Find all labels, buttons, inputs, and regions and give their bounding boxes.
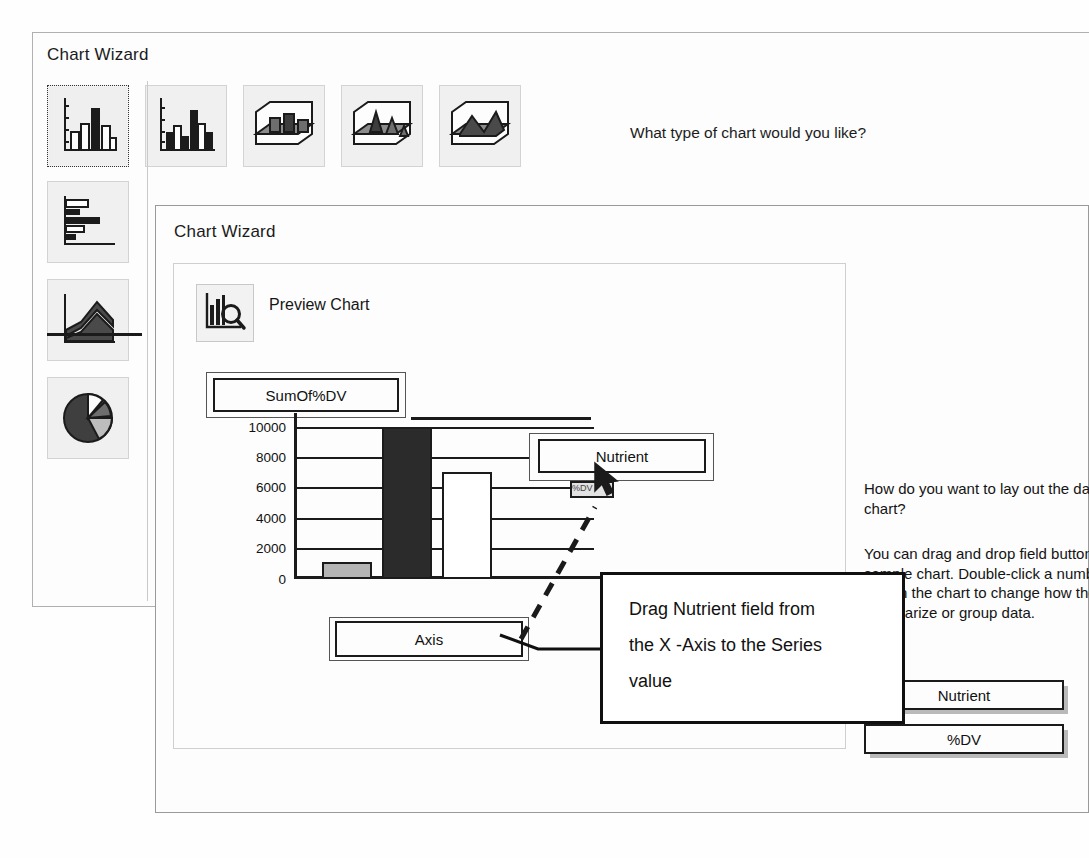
back-window-title: Chart Wizard (47, 45, 149, 65)
ytick-label: 6000 (256, 480, 286, 495)
axis-field-button[interactable]: Axis (335, 621, 523, 657)
area-chart-icon (53, 286, 123, 354)
preview-chart-icon-box[interactable] (196, 284, 254, 342)
annotation-line-3: value (629, 663, 876, 699)
3d-area-chart-icon (442, 92, 518, 160)
chart-top-rule (411, 417, 591, 420)
chart-type-column-2[interactable] (145, 85, 227, 167)
chart-type-horizontal-bar[interactable] (47, 181, 129, 263)
horizontal-bar-chart-icon (53, 188, 123, 256)
bar-2[interactable] (382, 427, 432, 579)
callout-leader-line (498, 633, 602, 653)
ytick-label: 2000 (256, 541, 286, 556)
ytick-label: 0 (278, 572, 286, 587)
value-field-button[interactable]: SumOf%DV (213, 378, 399, 412)
front-window-title: Chart Wizard (174, 222, 276, 242)
column-chart-icon (53, 92, 123, 160)
ytick-label: 4000 (256, 511, 286, 526)
annotation-line-2: the X -Axis to the Series (629, 627, 876, 663)
gridline-10000 (294, 427, 594, 429)
preview-chart-label: Preview Chart (269, 296, 369, 314)
chart-type-3d-cone[interactable] (341, 85, 423, 167)
annotation-line-1: Drag Nutrient field from (629, 591, 876, 627)
chart-type-3d-column[interactable] (243, 85, 325, 167)
sidebar-divider (47, 333, 142, 336)
chart-type-pie[interactable] (47, 377, 129, 459)
field-palette-dv[interactable]: %DV (864, 724, 1064, 754)
3d-cone-chart-icon (344, 92, 420, 160)
pie-chart-icon (53, 384, 123, 452)
chart-magnifier-icon (197, 285, 249, 337)
chart-type-area[interactable] (47, 279, 129, 361)
front-window-question: How do you want to lay out the data in y… (864, 479, 1089, 518)
ytick-label: 10000 (248, 420, 286, 435)
chart-type-3d-area[interactable] (439, 85, 521, 167)
chart-type-column[interactable] (47, 85, 129, 167)
bar-column-chart-icon (151, 92, 221, 160)
bar-1[interactable] (322, 562, 372, 579)
3d-column-chart-icon (246, 92, 322, 160)
screenshot-root: Chart Wizard (0, 0, 1089, 858)
back-window-question: What type of chart would you like? (630, 123, 866, 143)
annotation-callout: Drag Nutrient field from the X -Axis to … (600, 572, 905, 724)
back-window-vertical-rule (147, 81, 148, 601)
bar-3[interactable] (442, 472, 492, 579)
y-axis (294, 413, 297, 579)
ytick-label: 8000 (256, 450, 286, 465)
